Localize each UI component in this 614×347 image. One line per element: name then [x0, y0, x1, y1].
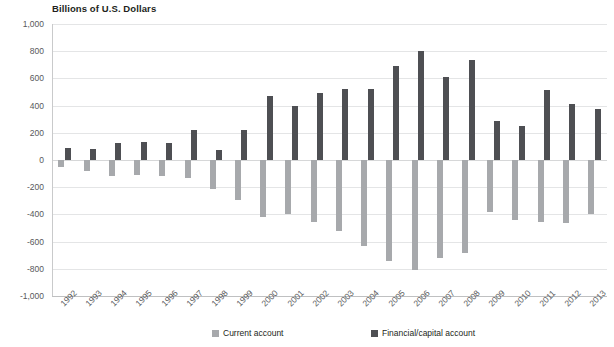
bar-financial-capital-account	[418, 51, 424, 160]
bar-current-account	[563, 160, 569, 223]
gridline--800	[52, 269, 607, 270]
y-tick-label: 600	[0, 73, 44, 83]
gridline-600	[52, 78, 607, 79]
bar-current-account	[386, 160, 392, 261]
y-tick-label: 800	[0, 46, 44, 56]
bar-financial-capital-account	[443, 77, 449, 160]
bar-current-account	[361, 160, 367, 246]
bar-financial-capital-account	[191, 130, 197, 160]
bar-financial-capital-account	[166, 143, 172, 160]
bar-financial-capital-account	[595, 109, 601, 160]
bar-financial-capital-account	[494, 121, 500, 160]
bar-financial-capital-account	[317, 93, 323, 160]
bar-current-account	[412, 160, 418, 270]
bar-financial-capital-account	[393, 66, 399, 160]
bar-financial-capital-account	[141, 142, 147, 160]
bar-financial-capital-account	[90, 149, 96, 160]
bar-current-account	[437, 160, 443, 258]
bar-current-account	[285, 160, 291, 214]
bar-financial-capital-account	[267, 96, 273, 160]
bar-current-account	[84, 160, 90, 171]
bar-current-account	[462, 160, 468, 253]
y-tick-label: 1,000	[0, 19, 44, 29]
y-tick-label: -200	[0, 182, 44, 192]
bar-current-account	[159, 160, 165, 176]
chart-title: Billions of U.S. Dollars	[52, 3, 156, 14]
bar-financial-capital-account	[342, 89, 348, 160]
y-tick-label: -800	[0, 264, 44, 274]
legend-item-financial-capital-account[interactable]: Financial/capital account	[371, 328, 475, 338]
bar-current-account	[260, 160, 266, 217]
bar-current-account	[58, 160, 64, 167]
y-tick-label: 200	[0, 128, 44, 138]
gridline-400	[52, 106, 607, 107]
bar-current-account	[185, 160, 191, 178]
bar-current-account	[538, 160, 544, 222]
bar-current-account	[109, 160, 115, 176]
bar-current-account	[134, 160, 140, 175]
legend-item-current-account[interactable]: Current account	[212, 328, 283, 338]
plot-area	[52, 24, 607, 296]
y-tick-label: -400	[0, 209, 44, 219]
gridline--200	[52, 187, 607, 188]
legend-label: Current account	[223, 328, 283, 338]
y-axis-line	[52, 24, 53, 296]
y-tick-label: 400	[0, 101, 44, 111]
bar-financial-capital-account	[569, 104, 575, 160]
chart-legend: Current accountFinancial/capital account	[0, 328, 614, 342]
y-tick-label: 0	[0, 155, 44, 165]
bar-financial-capital-account	[544, 90, 550, 160]
legend-label: Financial/capital account	[382, 328, 475, 338]
bar-financial-capital-account	[65, 148, 71, 160]
bar-current-account	[210, 160, 216, 189]
bar-current-account	[235, 160, 241, 200]
bar-financial-capital-account	[519, 126, 525, 160]
y-tick-label: -1,000	[0, 291, 44, 301]
y-tick-label: -600	[0, 237, 44, 247]
bar-financial-capital-account	[216, 150, 222, 160]
bar-current-account	[336, 160, 342, 231]
bar-current-account	[588, 160, 594, 214]
bar-financial-capital-account	[368, 89, 374, 160]
bar-current-account	[487, 160, 493, 212]
bar-financial-capital-account	[469, 60, 475, 160]
chart-container: Billions of U.S. Dollars 1,0008006004002…	[0, 0, 614, 347]
gridline-1000	[52, 24, 607, 25]
bar-current-account	[512, 160, 518, 220]
legend-swatch-icon	[212, 330, 219, 337]
bar-financial-capital-account	[115, 143, 121, 160]
bar-financial-capital-account	[292, 106, 298, 160]
gridline-800	[52, 51, 607, 52]
bar-financial-capital-account	[241, 130, 247, 160]
bar-current-account	[311, 160, 317, 222]
gridline--400	[52, 214, 607, 215]
legend-swatch-icon	[371, 330, 378, 337]
gridline--600	[52, 242, 607, 243]
